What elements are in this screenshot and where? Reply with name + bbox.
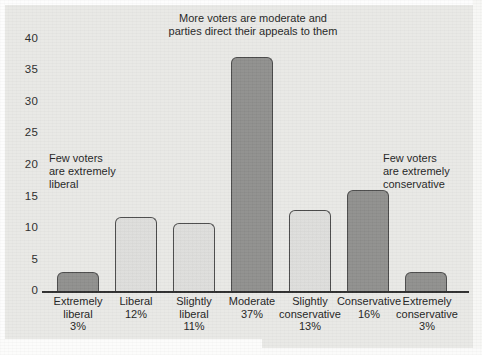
- page-edge-right: [473, 0, 482, 355]
- y-tick-5: 5: [16, 253, 38, 265]
- y-tick-20: 20: [16, 158, 38, 170]
- annotation-conservative-line2: are extremely: [383, 165, 482, 178]
- annotation-conservative: Few voters are extremely conservative: [383, 152, 482, 191]
- y-tick-25: 25: [16, 126, 38, 138]
- y-tick-10: 10: [16, 221, 38, 233]
- bar-slightly-conservative[interactable]: [289, 210, 331, 293]
- annotation-liberal: Few voters are extremely liberal: [49, 152, 144, 191]
- bar-extremely-liberal[interactable]: [57, 272, 99, 293]
- annotation-moderate-line1: More voters are moderate and: [163, 12, 343, 25]
- page-edge-left: [0, 0, 5, 355]
- x-label-extremely-conservative: Extremely conservative 3%: [388, 295, 466, 333]
- bar-conservative[interactable]: [347, 190, 389, 293]
- y-tick-0: 0: [16, 284, 38, 296]
- page-edge-top: [0, 0, 482, 5]
- y-tick-40: 40: [16, 32, 38, 44]
- x-label-value: 3%: [388, 320, 466, 333]
- annotation-liberal-line3: liberal: [49, 178, 144, 191]
- plot-area: 40 35 30 25 20 15 10 5 0 Extremely liber…: [0, 0, 482, 355]
- annotation-moderate-line2: parties direct their appeals to them: [163, 25, 343, 38]
- y-tick-15: 15: [16, 190, 38, 202]
- bar-moderate[interactable]: [231, 57, 273, 293]
- x-label-line2: conservative: [388, 308, 466, 321]
- x-label-value: 13%: [271, 320, 349, 333]
- annotation-moderate: More voters are moderate and parties dir…: [163, 12, 343, 38]
- x-label-line1: Extremely: [388, 295, 466, 308]
- annotation-conservative-line1: Few voters: [383, 152, 482, 165]
- y-tick-30: 30: [16, 95, 38, 107]
- x-label-value: 11%: [158, 320, 230, 333]
- bar-chart-figure: 40 35 30 25 20 15 10 5 0 Extremely liber…: [0, 0, 482, 355]
- annotation-liberal-line2: are extremely: [49, 165, 144, 178]
- bar-extremely-conservative[interactable]: [405, 272, 447, 293]
- annotation-liberal-line1: Few voters: [49, 152, 144, 165]
- page-edge-bottom-left: [0, 339, 262, 355]
- bar-liberal[interactable]: [115, 217, 157, 293]
- y-tick-35: 35: [16, 63, 38, 75]
- annotation-conservative-line3: conservative: [383, 178, 482, 191]
- bar-slightly-liberal[interactable]: [173, 223, 215, 293]
- x-axis-line: [42, 291, 469, 293]
- x-label-value: 3%: [42, 320, 114, 333]
